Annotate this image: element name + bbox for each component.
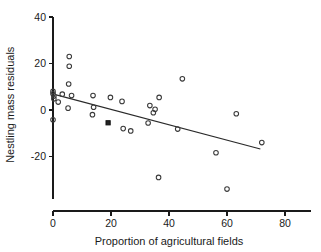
data-point-18 xyxy=(121,126,126,131)
data-point-17 xyxy=(120,99,125,104)
data-point-30 xyxy=(234,111,239,116)
y-tick-label--20: -20 xyxy=(31,150,46,162)
axes-group xyxy=(49,17,311,216)
data-point-19 xyxy=(128,129,133,134)
data-point-27 xyxy=(180,77,185,82)
scatter-plot-figure: -2002040020406080Proportion of agricultu… xyxy=(0,0,321,252)
y-tick-label-20: 20 xyxy=(34,57,46,69)
data-point-9 xyxy=(66,82,71,87)
data-point-6 xyxy=(60,92,65,97)
data-point-16 xyxy=(108,95,113,100)
regression-line-group xyxy=(55,95,260,149)
data-point-21 xyxy=(148,103,153,108)
regression-line xyxy=(55,95,260,149)
x-tick-label-80: 80 xyxy=(279,217,291,229)
data-point-13 xyxy=(91,105,96,110)
data-points-group xyxy=(51,54,264,191)
y-tick-label-0: 0 xyxy=(40,104,46,116)
data-point-28 xyxy=(214,150,219,155)
x-tick-label-0: 0 xyxy=(50,217,56,229)
data-point-15 xyxy=(106,121,110,125)
data-point-20 xyxy=(146,121,151,126)
x-axis-title: Proportion of agricultural fields xyxy=(95,235,244,247)
data-point-7 xyxy=(67,54,72,59)
axis-labels-group: -2002040020406080Proportion of agricultu… xyxy=(4,11,291,247)
y-axis-title: Nestling mass residuals xyxy=(4,46,16,163)
x-tick-label-60: 60 xyxy=(221,217,233,229)
plot-canvas: -2002040020406080Proportion of agricultu… xyxy=(0,0,321,252)
data-point-24 xyxy=(157,95,162,100)
data-point-31 xyxy=(260,140,265,145)
y-tick-label-40: 40 xyxy=(34,11,46,23)
x-tick-label-40: 40 xyxy=(163,217,175,229)
data-point-8 xyxy=(67,64,72,69)
data-point-25 xyxy=(156,175,161,180)
data-point-11 xyxy=(69,93,74,98)
x-tick-label-20: 20 xyxy=(105,217,117,229)
data-point-29 xyxy=(225,187,230,192)
data-point-12 xyxy=(91,93,96,98)
data-point-5 xyxy=(56,100,61,105)
data-point-10 xyxy=(66,106,71,111)
data-point-14 xyxy=(90,112,95,117)
